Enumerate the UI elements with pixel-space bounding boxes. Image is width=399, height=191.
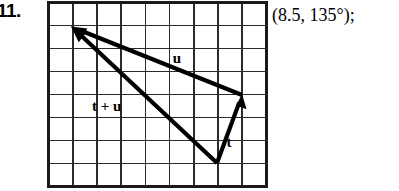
answer-text: (8.5, 135°);	[272, 2, 397, 30]
vector-label-t-plus-u: t + u	[92, 98, 121, 114]
vector-label-t: t	[227, 134, 232, 150]
problem-number: 11.	[0, 0, 41, 23]
vector-diagram: u t + u t	[47, 1, 268, 188]
vector-label-u: u	[173, 50, 181, 66]
figure-root: 11.	[0, 0, 399, 191]
vector-diagram-svg: u t + u t	[47, 1, 268, 188]
